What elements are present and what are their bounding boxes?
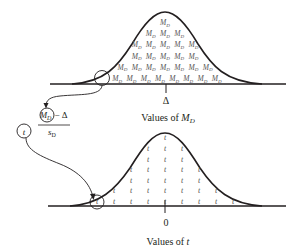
bottom-distribution: 0 Values of t tttttttttttttttttttttttttt… <box>48 133 286 247</box>
t-item: t <box>215 197 218 206</box>
md-item: MD <box>173 63 184 73</box>
md-item: MD <box>145 40 156 50</box>
md-item: MD <box>187 52 198 62</box>
md-item: MD <box>159 29 170 39</box>
t-item: t <box>147 165 150 174</box>
md-item: MD <box>168 74 179 84</box>
md-item: MD <box>173 29 184 39</box>
md-item: MD <box>159 18 170 28</box>
md-item: MD <box>145 63 156 73</box>
md-item: MD <box>197 74 208 84</box>
t-item: t <box>181 144 184 153</box>
md-item: MD <box>131 52 142 62</box>
t-item: t <box>130 176 133 185</box>
md-item: MD <box>131 63 142 73</box>
t-item: t <box>164 155 167 164</box>
md-item: MD <box>211 74 222 84</box>
t-item: t <box>147 176 150 185</box>
formula-denominator: sD <box>48 127 57 138</box>
md-item: MD <box>159 40 170 50</box>
bottom-axis-label: Values of t <box>147 236 190 247</box>
t-formula: MD− Δ sD t <box>17 108 70 138</box>
md-item: MD <box>116 63 127 73</box>
t-item: t <box>164 165 167 174</box>
md-item: MD <box>173 52 184 62</box>
md-item: MD <box>145 29 156 39</box>
arrow-md-to-formula <box>46 86 102 106</box>
md-item: MD <box>182 74 193 84</box>
md-item: MD <box>140 74 151 84</box>
md-item: MD <box>111 74 122 84</box>
md-item: MD <box>173 40 184 50</box>
t-item: t <box>164 176 167 185</box>
t-item: t <box>113 197 116 206</box>
t-items-grid: ttttttttttttttttttttttttttttttttt <box>96 133 235 206</box>
t-item: t <box>181 186 184 195</box>
t-item: t <box>147 144 150 153</box>
t-item: t <box>113 186 116 195</box>
t-item: t <box>164 186 167 195</box>
md-item: MD <box>159 52 170 62</box>
t-item: t <box>130 165 133 174</box>
t-item: t <box>181 155 184 164</box>
md-item: MD <box>126 74 137 84</box>
connector-arrows <box>26 86 102 200</box>
md-item: MD <box>187 63 198 73</box>
t-item: t <box>147 155 150 164</box>
t-item: t <box>164 133 167 142</box>
top-axis-label: Values of MD <box>141 112 194 125</box>
md-item: MD <box>159 63 170 73</box>
t-item: t <box>181 176 184 185</box>
t-item: t <box>147 186 150 195</box>
delta-label: Δ <box>163 95 170 106</box>
t-item: t <box>198 176 201 185</box>
t-item: t <box>198 197 201 206</box>
t-item: t <box>147 197 150 206</box>
md-item: MD <box>131 40 142 50</box>
md-item: MD <box>154 74 165 84</box>
t-item: t <box>164 197 167 206</box>
md-to-t-transformation-diagram: Δ Values of MD MDMDMDMDMDMDMDMDMDMDMDMDM… <box>0 0 297 251</box>
t-item: t <box>181 165 184 174</box>
t-item: t <box>130 186 133 195</box>
t-item: t <box>181 197 184 206</box>
t-item: t <box>198 186 201 195</box>
t-item: t <box>232 197 235 206</box>
md-item: MD <box>145 52 156 62</box>
t-item: t <box>130 197 133 206</box>
md-item: MD <box>202 63 213 73</box>
arrow-t-to-distribution <box>26 138 93 197</box>
top-distribution: Δ Values of MD MDMDMDMDMDMDMDMDMDMDMDMDM… <box>50 12 286 125</box>
t-item: t <box>164 144 167 153</box>
zero-label: 0 <box>164 217 169 228</box>
formula-t-symbol: t <box>23 127 26 137</box>
